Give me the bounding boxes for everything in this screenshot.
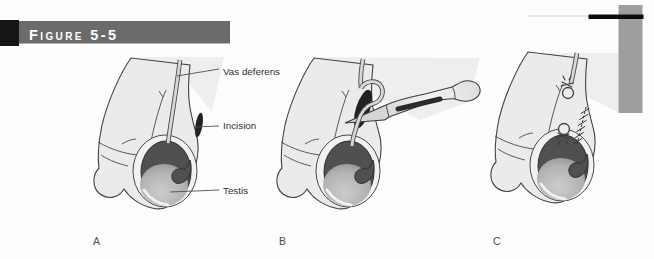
header-accent-block	[0, 20, 19, 46]
side-bar	[619, 5, 643, 113]
figure-header: Figure 5-5	[0, 20, 230, 46]
male-anatomy-b	[277, 58, 381, 209]
panel-letter-b: B	[279, 235, 286, 247]
panel-letter-a: A	[93, 235, 100, 247]
label-testis: Testis	[223, 185, 248, 196]
label-vas-deferens: Vas deferens	[223, 66, 280, 77]
figure-page: Vas deferens Incision Testis A B C Figur…	[0, 0, 654, 259]
male-anatomy-a	[94, 58, 198, 209]
label-incision: Incision	[223, 120, 256, 131]
male-anatomy-c	[491, 52, 595, 203]
top-rule	[589, 15, 644, 20]
figure-title: Figure 5-5	[29, 27, 119, 43]
panel-a	[94, 58, 205, 209]
panel-letter-c: C	[493, 235, 501, 247]
figure-canvas: Vas deferens Incision Testis A B C Figur…	[0, 0, 654, 259]
panel-c	[491, 52, 595, 203]
thin-rule	[528, 16, 589, 17]
